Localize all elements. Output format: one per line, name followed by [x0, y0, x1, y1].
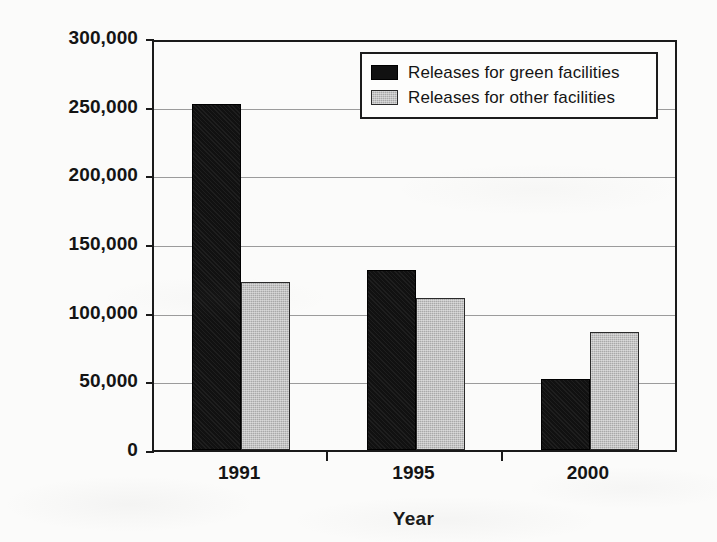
- y-axis-tick-label: 100,000: [69, 302, 138, 324]
- y-axis-tick-mark: [146, 314, 154, 316]
- y-axis-tick-label: 150,000: [69, 233, 138, 255]
- y-axis-tick-mark: [146, 176, 154, 178]
- y-axis-tick-mark: [146, 451, 154, 453]
- bar-1991-green: [192, 104, 241, 450]
- x-axis-tick-label: 1991: [152, 462, 326, 484]
- plot-top-border: [152, 40, 677, 42]
- y-axis-tick-mark: [146, 245, 154, 247]
- legend-item-other: Releases for other facilities: [371, 85, 647, 110]
- legend-item-label: Releases for green facilities: [408, 63, 620, 83]
- bar-2000-green: [541, 379, 590, 450]
- bar-1991-other: [241, 282, 290, 450]
- plot-right-border: [675, 40, 677, 452]
- y-axis-tick-label: 200,000: [69, 164, 138, 186]
- x-axis-tick-mark: [326, 452, 328, 461]
- bar-chart: Pounds of Pollution 050,000100,000150,00…: [0, 0, 717, 542]
- chart-legend: Releases for green facilities Releases f…: [360, 52, 658, 119]
- bar-2000-other: [590, 332, 639, 450]
- x-axis-title: Year: [152, 508, 675, 530]
- gray-square-icon: [371, 90, 398, 105]
- bar-1995-other: [416, 298, 465, 450]
- x-axis-tick-mark: [501, 452, 503, 461]
- legend-item-green: Releases for green facilities: [371, 60, 647, 85]
- y-axis-tick-labels: 050,000100,000150,000200,000250,000300,0…: [0, 0, 138, 542]
- y-axis-tick-label: 0: [127, 439, 138, 461]
- y-axis-tick-mark: [146, 382, 154, 384]
- y-axis-tick-label: 250,000: [69, 96, 138, 118]
- legend-item-label: Releases for other facilities: [408, 88, 615, 108]
- x-axis-tick-label: 1995: [327, 462, 501, 484]
- y-axis-tick-label: 300,000: [69, 27, 138, 49]
- y-axis-tick-mark: [146, 108, 154, 110]
- bar-1995-green: [367, 270, 416, 450]
- black-square-icon: [371, 65, 398, 80]
- y-axis-tick-label: 50,000: [79, 370, 138, 392]
- x-axis-tick-label: 2000: [501, 462, 675, 484]
